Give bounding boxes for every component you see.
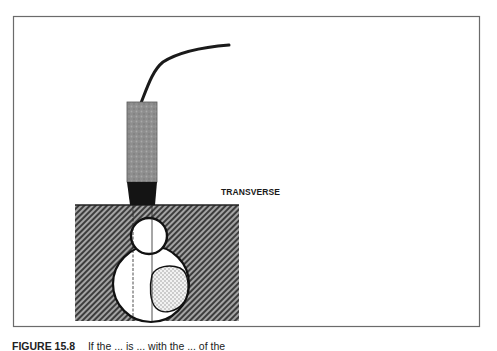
transverse-label: TRANSVERSE — [221, 187, 280, 197]
left-transducer-body — [127, 102, 157, 182]
figure-number: FIGURE 15.8 — [12, 340, 75, 351]
left-speckled-inclusion — [150, 266, 188, 312]
left-small-void — [131, 218, 167, 254]
caption-text: If the ... is ... with the ... of the — [88, 340, 225, 351]
diagram-figure — [0, 0, 497, 351]
left-transducer-tip — [127, 182, 157, 205]
figure-caption: FIGURE 15.8 If the ... is ... with the .… — [12, 340, 225, 351]
